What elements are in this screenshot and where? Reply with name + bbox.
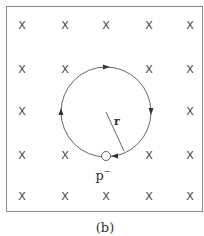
field-into-page-icon: X xyxy=(145,149,153,162)
arrow-down-icon xyxy=(149,108,154,115)
field-into-page-icon: X xyxy=(102,190,110,203)
field-into-page-icon: X xyxy=(61,19,69,32)
field-into-page-icon: X xyxy=(18,190,26,203)
field-into-page-icon: X xyxy=(186,149,194,162)
field-into-page-icon: X xyxy=(18,63,26,76)
field-into-page-icon: X xyxy=(186,190,194,203)
field-region-frame xyxy=(7,7,203,212)
field-into-page-icon: X xyxy=(145,190,153,203)
field-into-page-icon: X xyxy=(61,190,69,203)
field-into-page-icon: X xyxy=(61,63,69,76)
field-into-page-icon: X xyxy=(61,149,69,162)
field-into-page-icon: X xyxy=(102,19,110,32)
field-into-page-icon: X xyxy=(18,149,26,162)
particle-label: p− xyxy=(95,167,110,183)
field-into-page-icon: X xyxy=(145,63,153,76)
field-into-page-icon: X xyxy=(145,19,153,32)
arrow-left-icon xyxy=(111,154,118,159)
field-into-page-icon: X xyxy=(186,105,194,118)
particle-charge: − xyxy=(104,167,111,176)
arrow-up-icon xyxy=(59,108,64,115)
field-into-page-icon: X xyxy=(18,105,26,118)
field-into-page-icon: X xyxy=(186,63,194,76)
arrow-right-icon xyxy=(103,65,110,70)
figure-caption: (b) xyxy=(96,220,114,235)
magnetic-field-diagram: X X X X X X X X X X X X X X X X X X X X … xyxy=(0,0,204,236)
particle-antiproton xyxy=(102,152,111,161)
particle-symbol: p xyxy=(95,168,103,183)
field-into-page-icon: X xyxy=(18,19,26,32)
field-into-page-icon: X xyxy=(186,19,194,32)
radius-label: r xyxy=(114,115,120,128)
